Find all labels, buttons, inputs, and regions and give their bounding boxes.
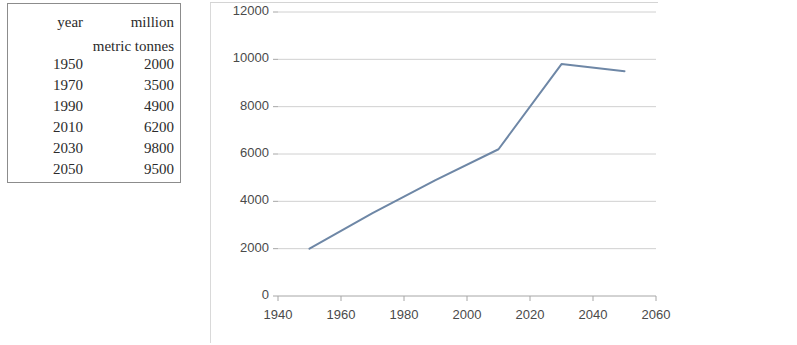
y-axis-tick-label: 6000 — [210, 145, 269, 160]
y-axis-ticks-group — [273, 12, 278, 296]
line-chart-plot — [210, 2, 790, 343]
table-header: year million metric tonnes — [8, 4, 180, 54]
x-axis-tick-label: 2040 — [568, 307, 618, 322]
data-table: year million metric tonnes 1950200019703… — [8, 4, 180, 180]
cell-value: 3500 — [87, 75, 180, 96]
cell-year: 1990 — [8, 96, 87, 117]
y-axis-tick-label: 12000 — [210, 3, 269, 18]
cell-year: 1970 — [8, 75, 87, 96]
cell-value: 9800 — [87, 138, 180, 159]
cell-value: 6200 — [87, 117, 180, 138]
table-header-row-1: year million — [8, 4, 180, 30]
x-axis-tick-label: 1980 — [379, 307, 429, 322]
x-axis-ticks-group — [278, 296, 656, 301]
table-row: 20509500 — [8, 159, 180, 180]
y-axis-tick-label: 4000 — [210, 192, 269, 207]
x-axis-tick-label: 2000 — [442, 307, 492, 322]
y-axis-tick-label: 2000 — [210, 240, 269, 255]
table-row: 19904900 — [8, 96, 180, 117]
x-axis-tick-label: 1940 — [253, 307, 303, 322]
cell-year: 1950 — [8, 54, 87, 75]
cell-value: 9500 — [87, 159, 180, 180]
column-header-value-line2: metric tonnes — [87, 30, 180, 54]
column-header-year: year — [8, 4, 87, 30]
x-axis-tick-label: 1960 — [316, 307, 366, 322]
table-body: 1950200019703500199049002010620020309800… — [8, 54, 180, 180]
cell-year: 2010 — [8, 117, 87, 138]
gridlines-group — [278, 12, 656, 249]
cell-year: 2050 — [8, 159, 87, 180]
y-axis-tick-label: 0 — [210, 287, 269, 302]
x-axis-tick-label: 2020 — [505, 307, 555, 322]
table-header-row-2: metric tonnes — [8, 30, 180, 54]
cell-value: 4900 — [87, 96, 180, 117]
data-table-container: year million metric tonnes 1950200019703… — [7, 3, 181, 183]
x-axis-tick-label: 2060 — [631, 307, 681, 322]
cell-value: 2000 — [87, 54, 180, 75]
y-axis-tick-label: 8000 — [210, 98, 269, 113]
cell-year: 2030 — [8, 138, 87, 159]
table-row: 19502000 — [8, 54, 180, 75]
table-row: 19703500 — [8, 75, 180, 96]
column-header-year-blank — [8, 30, 87, 54]
table-row: 20309800 — [8, 138, 180, 159]
y-axis-tick-label: 10000 — [210, 50, 269, 65]
data-series-line — [310, 64, 625, 249]
column-header-value-line1: million — [87, 4, 180, 30]
chart-container: 020004000600080001000012000 194019601980… — [210, 2, 790, 343]
table-row: 20106200 — [8, 117, 180, 138]
